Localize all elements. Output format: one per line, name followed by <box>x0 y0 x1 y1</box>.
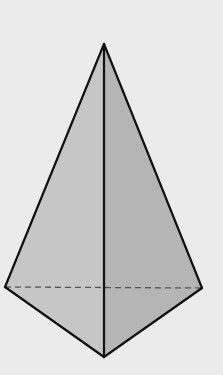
pyramid-svg <box>0 0 223 375</box>
pyramid-diagram <box>0 0 223 375</box>
left-face <box>5 44 104 357</box>
right-face <box>104 44 202 357</box>
